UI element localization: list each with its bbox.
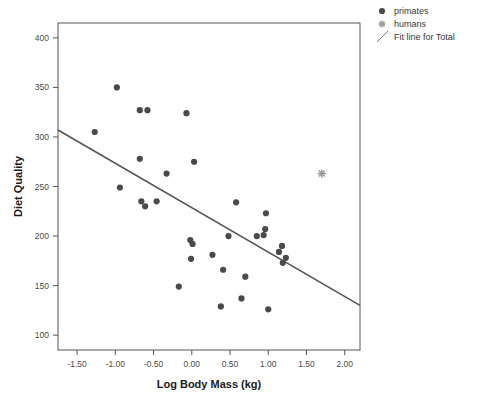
legend-marker-primates	[379, 8, 385, 14]
data-point-primates	[154, 198, 160, 204]
chart-canvas: -1.50-1.00-0.500.000.501.001.502.0010015…	[0, 0, 484, 405]
y-tick-label: 300	[35, 132, 49, 142]
data-point-primates	[254, 233, 260, 239]
data-point-primates	[276, 249, 282, 255]
data-point-primates	[92, 129, 98, 135]
x-tick-label: -0.50	[144, 359, 164, 369]
legend-label-primates: primates	[394, 6, 429, 16]
data-point-primates	[114, 84, 120, 90]
legend-marker-humans	[378, 20, 385, 27]
data-point-primates	[137, 107, 143, 113]
y-tick-label: 250	[35, 182, 49, 192]
data-point-primates	[142, 203, 148, 209]
y-axis-title: Diet Quality	[12, 155, 24, 217]
data-point-primates	[138, 198, 144, 204]
data-point-primates	[163, 171, 169, 177]
data-point-primates	[191, 159, 197, 165]
x-tick-label: 0.50	[222, 359, 239, 369]
legend-label-humans: humans	[394, 19, 427, 29]
data-point-primates	[117, 184, 123, 190]
data-point-primates	[183, 110, 189, 116]
data-point-primates	[209, 252, 215, 258]
data-point-primates	[242, 274, 248, 280]
scatter-plot-figure: -1.50-1.00-0.500.000.501.001.502.0010015…	[0, 0, 484, 405]
data-point-primates	[144, 107, 150, 113]
data-point-primates	[261, 232, 267, 238]
figure-background	[0, 0, 484, 405]
data-point-primates	[238, 295, 244, 301]
y-tick-label: 150	[35, 281, 49, 291]
data-point-primates	[218, 303, 224, 309]
x-axis-title: Log Body Mass (kg)	[157, 378, 262, 390]
x-tick-label: 2.00	[336, 359, 353, 369]
data-point-primates	[279, 243, 285, 249]
x-tick-label: 1.00	[260, 359, 277, 369]
data-point-primates	[262, 226, 268, 232]
data-point-primates	[233, 199, 239, 205]
x-tick-label: -1.00	[106, 359, 126, 369]
x-tick-label: 1.50	[298, 359, 315, 369]
data-point-primates	[189, 241, 195, 247]
y-tick-label: 200	[35, 231, 49, 241]
y-tick-label: 400	[35, 33, 49, 43]
y-tick-label: 350	[35, 82, 49, 92]
data-point-primates	[265, 306, 271, 312]
data-point-humans	[318, 169, 326, 177]
legend-label-fit-line-for-total: Fit line for Total	[394, 32, 455, 42]
x-tick-label: -1.50	[67, 359, 87, 369]
y-tick-label: 100	[35, 330, 49, 340]
data-point-primates	[176, 283, 182, 289]
x-tick-label: 0.00	[184, 359, 201, 369]
data-point-primates	[283, 255, 289, 261]
data-point-primates	[188, 256, 194, 262]
data-point-primates	[263, 210, 269, 216]
data-point-primates	[137, 156, 143, 162]
data-point-primates	[225, 233, 231, 239]
data-point-primates	[220, 267, 226, 273]
